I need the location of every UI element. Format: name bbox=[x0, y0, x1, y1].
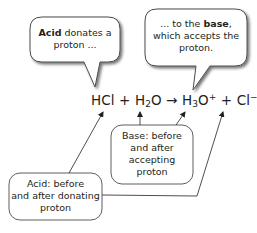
cl-minus: Cl− bbox=[237, 92, 257, 108]
acid-label: Acid: before and after donating proton bbox=[9, 178, 102, 214]
callout-acid-rest: donates a bbox=[61, 27, 111, 38]
arrow-to-hcl bbox=[69, 112, 103, 173]
hcl: HCl bbox=[91, 92, 115, 108]
acid-label-line3: proton bbox=[9, 202, 102, 214]
callout-acid-bold: Acid bbox=[38, 27, 61, 38]
plus-1: + bbox=[119, 92, 130, 108]
base-label: Base: before and after accepting proton bbox=[111, 130, 193, 178]
callout-acid-donates: Acid donates a proton ... bbox=[32, 27, 118, 51]
callout-base-line2: which accepts the bbox=[147, 30, 245, 42]
base-label-line4: proton bbox=[111, 166, 193, 178]
callout-base-bold: base bbox=[203, 18, 228, 29]
arrow-to-h3o bbox=[176, 112, 185, 125]
h2o: H2O bbox=[135, 92, 162, 108]
callout-to-base: ... to the base, which accepts the proto… bbox=[147, 18, 245, 54]
chemical-equation: HCl + H2O → H3O+ + Cl− bbox=[91, 92, 257, 108]
base-label-line1: Base: before bbox=[111, 130, 193, 142]
callout-base-start: ... to the bbox=[160, 18, 203, 29]
reaction-arrow: → bbox=[166, 92, 177, 108]
acid-label-line1: Acid: before bbox=[9, 178, 102, 190]
plus-2: + bbox=[221, 92, 232, 108]
base-label-line3: accepting bbox=[111, 154, 193, 166]
base-label-line2: and after bbox=[111, 142, 193, 154]
callout-base-line3: proton. bbox=[147, 42, 245, 54]
h3o-plus: H3O+ bbox=[182, 92, 216, 108]
callout-base-comma: , bbox=[229, 18, 232, 29]
callout-acid-line2: proton ... bbox=[32, 39, 118, 51]
acid-label-line2: and after donating bbox=[9, 190, 102, 202]
